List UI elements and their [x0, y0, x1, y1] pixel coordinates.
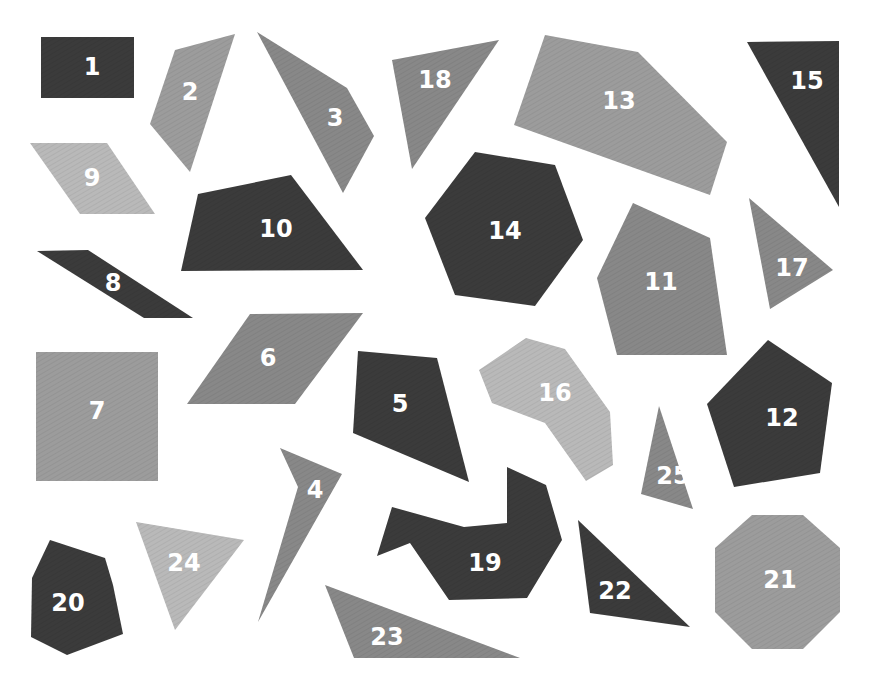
shape-label: 24: [167, 549, 200, 577]
shape-8: 8: [37, 250, 193, 318]
shape-5: 5: [353, 351, 469, 482]
shapes-diagram: 1234567891011121314151617181920212223242…: [0, 0, 878, 685]
shape-label: 1: [84, 53, 101, 81]
shape-label: 20: [51, 589, 84, 617]
shape-label: 10: [259, 215, 292, 243]
shape-label: 12: [765, 404, 798, 432]
shape-21: 21: [715, 515, 840, 649]
shape-texture: [747, 41, 839, 207]
shape-6: 6: [187, 313, 363, 404]
shape-label: 2: [182, 78, 199, 106]
shape-20: 20: [31, 540, 123, 655]
shape-11: 11: [597, 203, 727, 355]
shape-label: 22: [598, 577, 631, 605]
shape-12: 12: [707, 340, 832, 487]
shape-15: 15: [747, 41, 839, 207]
shape-16: 16: [479, 338, 613, 481]
shape-17: 17: [749, 198, 833, 309]
shape-label: 3: [327, 104, 344, 132]
shape-texture: [392, 40, 499, 169]
shape-label: 7: [89, 397, 106, 425]
shape-label: 8: [105, 269, 122, 297]
shapes-canvas: 1234567891011121314151617181920212223242…: [0, 0, 878, 685]
shape-label: 5: [392, 390, 409, 418]
shape-label: 16: [538, 379, 571, 407]
shape-label: 9: [84, 164, 101, 192]
shape-18: 18: [392, 40, 499, 169]
shapes-layer: 1234567891011121314151617181920212223242…: [30, 32, 840, 658]
shape-19: 19: [377, 467, 562, 600]
shape-label: 23: [370, 623, 403, 651]
shape-2: 2: [150, 34, 235, 172]
shape-label: 11: [644, 268, 677, 296]
shape-1: 1: [41, 37, 134, 98]
shape-label: 4: [307, 476, 324, 504]
shape-texture: [353, 351, 469, 482]
shape-label: 17: [775, 254, 808, 282]
shape-14: 14: [425, 152, 583, 306]
shape-24: 24: [136, 522, 244, 630]
shape-texture: [377, 467, 562, 600]
shape-3: 3: [257, 32, 374, 193]
shape-texture: [479, 338, 613, 481]
shape-texture: [257, 32, 374, 193]
shape-25: 25: [641, 406, 693, 509]
shape-label: 25: [656, 462, 689, 490]
shape-label: 21: [763, 566, 796, 594]
shape-label: 13: [602, 87, 635, 115]
shape-label: 14: [488, 217, 521, 245]
shape-label: 19: [468, 549, 501, 577]
shape-label: 6: [260, 344, 277, 372]
shape-label: 15: [790, 67, 823, 95]
shape-label: 18: [418, 66, 451, 94]
shape-texture: [578, 520, 690, 627]
shape-7: 7: [36, 352, 158, 481]
shape-22: 22: [578, 520, 690, 627]
shape-9: 9: [30, 143, 155, 214]
shape-texture: [641, 406, 693, 509]
shape-10: 10: [181, 175, 363, 271]
